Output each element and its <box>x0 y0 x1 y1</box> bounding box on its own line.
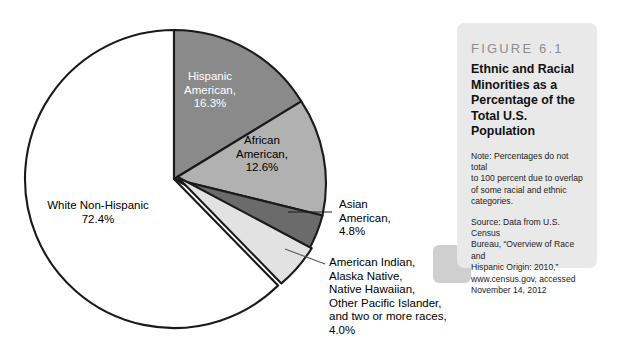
figure-source: Source: Data from U.S. Census Bureau, “O… <box>471 217 584 297</box>
figure-title: Ethnic and Racial Minorities as a Percen… <box>471 62 584 140</box>
pie-label-white-non-hispanic: White Non-Hispanic 72.4% <box>33 199 163 226</box>
figure-note: Note: Percentages do not total to 100 pe… <box>471 151 584 208</box>
figure-number: FIGURE 6.1 <box>471 41 584 56</box>
pie-callout-asian-american: Asian American, 4.8% <box>339 198 419 239</box>
pie-label-african-american: African American, 12.6% <box>222 134 302 175</box>
caption-panel: FIGURE 6.1 Ethnic and Racial Minorities … <box>457 23 597 268</box>
caption-panel-content: FIGURE 6.1 Ethnic and Racial Minorities … <box>471 41 584 296</box>
pie-chart: Hispanic American, 16.3% African America… <box>0 0 430 357</box>
figure-root: Hispanic American, 16.3% African America… <box>0 0 617 357</box>
pie-label-hispanic-american: Hispanic American, 16.3% <box>171 70 249 111</box>
